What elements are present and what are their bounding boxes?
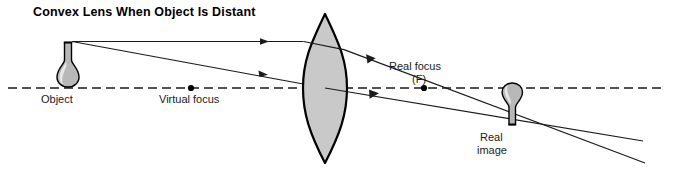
refracted-ray-parallel (304, 42, 646, 164)
virtual-focus-label: Virtual focus (159, 93, 220, 105)
incident-ray-through-center-line (72, 42, 325, 89)
incident-ray-through-center (72, 42, 325, 89)
refracted-ray-parallel-arrowhead (366, 54, 376, 63)
real-image-label-line2: image (477, 144, 507, 156)
object-flask (57, 43, 79, 88)
object-label: Object (41, 93, 73, 105)
real-focus-symbol-label: (F) (412, 73, 426, 85)
page-title: Convex Lens When Object Is Distant (33, 5, 256, 19)
virtual-focus-point (188, 85, 194, 91)
refracted-ray-through-center-arrowhead (369, 90, 379, 99)
convex-lens-ray-diagram: Convex Lens When Object Is Distant Objec… (0, 0, 685, 180)
incident-ray-parallel-arrowhead (260, 38, 269, 44)
real-focus-point (421, 85, 427, 91)
real-image-label-line1: Real (480, 131, 503, 143)
lens-diagram-page: Convex Lens When Object Is Distant Objec… (0, 0, 685, 180)
incident-ray-parallel (72, 38, 304, 44)
real-focus-label: Real focus (389, 60, 441, 72)
incident-ray-through-center-arrowhead (259, 71, 269, 77)
